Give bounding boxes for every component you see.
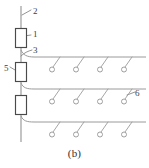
hook-stem bbox=[53, 122, 60, 132]
branch-upper-line bbox=[21, 50, 146, 57]
hook-bulb bbox=[98, 99, 103, 104]
hook-bulb bbox=[122, 99, 127, 104]
emitter-hook bbox=[74, 89, 85, 104]
hook-stem bbox=[101, 122, 108, 132]
emitter-hook bbox=[50, 89, 61, 104]
branch-middle-line bbox=[21, 83, 146, 89]
emitter-hook bbox=[50, 57, 61, 72]
hook-stem bbox=[101, 57, 108, 67]
emitter-hook bbox=[98, 89, 109, 104]
hook-bulb bbox=[50, 132, 55, 137]
hook-stem bbox=[53, 89, 60, 99]
hook-bulb bbox=[74, 67, 79, 72]
branch-middle bbox=[21, 83, 146, 104]
hook-bulb bbox=[50, 99, 55, 104]
hook-stem bbox=[77, 57, 84, 67]
hook-stem bbox=[77, 89, 84, 99]
emitter-hook bbox=[98, 57, 109, 72]
hook-bulb bbox=[98, 132, 103, 137]
hook-bulb bbox=[74, 132, 79, 137]
emitter-hook-labeled-6 bbox=[122, 89, 133, 104]
emitter-hook bbox=[98, 122, 109, 137]
branch-lower bbox=[21, 116, 146, 137]
emitter-hook bbox=[50, 122, 61, 137]
hook-bulb bbox=[50, 67, 55, 72]
hook-stem bbox=[77, 122, 84, 132]
emitter-hook bbox=[74, 122, 85, 137]
callout-label-2: 2 bbox=[33, 7, 38, 16]
valve-box-3rd bbox=[16, 96, 27, 115]
callout-label-1: 1 bbox=[33, 30, 38, 39]
leader-line-5 bbox=[10, 67, 15, 70]
callout-label-3: 3 bbox=[33, 46, 38, 55]
hook-stem bbox=[101, 89, 108, 99]
leader-line-2 bbox=[22, 10, 31, 15]
callout-label-5: 5 bbox=[4, 64, 9, 73]
hook-bulb bbox=[122, 132, 127, 137]
hook-bulb bbox=[74, 99, 79, 104]
emitter-hook bbox=[122, 122, 133, 137]
schematic-diagram bbox=[0, 0, 149, 168]
hook-stem bbox=[125, 122, 132, 132]
hook-stem bbox=[125, 89, 132, 99]
hook-bulb bbox=[98, 67, 103, 72]
hook-bulb bbox=[122, 67, 127, 72]
hook-stem bbox=[125, 57, 132, 67]
valve-box-5 bbox=[16, 63, 27, 82]
emitter-hook bbox=[122, 57, 133, 72]
branch-lower-line bbox=[21, 116, 146, 122]
branch-upper bbox=[21, 50, 146, 72]
callout-label-6: 6 bbox=[135, 89, 140, 98]
figure-container: 2 1 3 5 6 (b) bbox=[0, 0, 149, 168]
figure-caption: (b) bbox=[0, 147, 149, 159]
hook-stem bbox=[53, 57, 60, 67]
valve-box-1 bbox=[16, 29, 27, 48]
emitter-hook bbox=[74, 57, 85, 72]
